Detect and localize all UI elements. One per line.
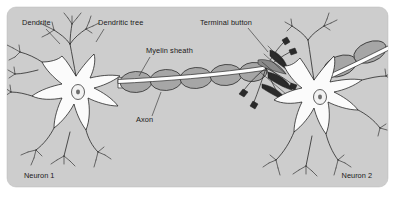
neuron-diagram-figure: Dendrite Dendritic tree Myelin sheath Te… xyxy=(0,0,395,198)
label-terminal-button: Terminal button xyxy=(200,18,252,27)
label-neuron-2: Neuron 2 xyxy=(342,171,372,180)
neuron-2-nucleolus xyxy=(318,95,322,100)
label-neuron-1: Neuron 1 xyxy=(24,171,54,180)
label-dendritic-tree: Dendritic tree xyxy=(98,18,143,27)
label-axon: Axon xyxy=(136,115,153,124)
neuron-1-nucleolus xyxy=(76,90,80,95)
label-dendrite: Dendrite xyxy=(22,18,51,27)
diagram-canvas: Dendrite Dendritic tree Myelin sheath Te… xyxy=(0,0,395,198)
label-myelin-sheath: Myelin sheath xyxy=(146,46,193,55)
